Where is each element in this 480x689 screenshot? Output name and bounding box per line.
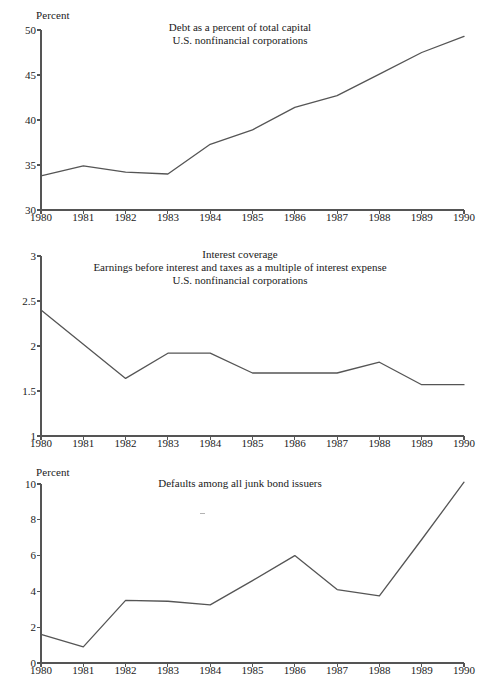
x-tick-label-2-1983: 1983 (151, 438, 185, 449)
x-tick-label-2-1982: 1982 (109, 438, 143, 449)
y-tick-label-1-50: 50 (0, 25, 36, 36)
x-tick-label-1-1984: 1984 (193, 212, 227, 223)
y-tick-label-1-45: 45 (0, 70, 36, 81)
x-tick-label-2-1990: 1990 (447, 438, 480, 449)
data-series-line-2 (41, 310, 464, 385)
x-tick-label-1-1981: 1981 (66, 212, 100, 223)
chart-svg-2 (0, 230, 480, 460)
x-tick-label-3-1983: 1983 (151, 665, 185, 676)
chart-svg-3 (0, 460, 480, 689)
x-tick-label-3-1981: 1981 (66, 665, 100, 676)
x-tick-label-2-1987: 1987 (320, 438, 354, 449)
x-tick-label-1-1988: 1988 (362, 212, 396, 223)
x-tick-label-1-1989: 1989 (405, 212, 439, 223)
y-tick-label-3-4: 4 (0, 586, 36, 597)
x-tick-label-3-1980: 1980 (24, 665, 58, 676)
y-tick-label-3-2: 2 (0, 622, 36, 633)
x-tick-label-1-1986: 1986 (278, 212, 312, 223)
x-tick-label-2-1985: 1985 (236, 438, 270, 449)
x-tick-label-2-1988: 1988 (362, 438, 396, 449)
x-tick-label-1-1987: 1987 (320, 212, 354, 223)
x-tick-label-3-1982: 1982 (109, 665, 143, 676)
plot-area-3 (0, 460, 480, 689)
x-tick-label-3-1987: 1987 (320, 665, 354, 676)
chart-panel-3: Percent Defaults among all junk bond iss… (0, 460, 480, 689)
x-tick-label-1-1985: 1985 (236, 212, 270, 223)
chart-panel-1: Percent Debt as a percent of total capit… (0, 0, 480, 230)
x-tick-label-3-1989: 1989 (405, 665, 439, 676)
x-tick-label-1-1990: 1990 (447, 212, 480, 223)
x-tick-label-2-1989: 1989 (405, 438, 439, 449)
data-series-line-3 (41, 482, 464, 647)
y-tick-label-2-2: 2 (0, 341, 36, 352)
x-tick-label-1-1983: 1983 (151, 212, 185, 223)
plot-area-1 (0, 0, 480, 230)
x-tick-label-3-1985: 1985 (236, 665, 270, 676)
y-tick-label-3-6: 6 (0, 550, 36, 561)
x-tick-label-3-1984: 1984 (193, 665, 227, 676)
chart-panel-2: Interest coverage Earnings before intere… (0, 230, 480, 460)
x-tick-label-3-1986: 1986 (278, 665, 312, 676)
plot-area-2 (0, 230, 480, 460)
scan-artifact (200, 513, 205, 514)
x-tick-label-1-1980: 1980 (24, 212, 58, 223)
x-tick-label-2-1980: 1980 (24, 438, 58, 449)
y-tick-label-2-1.5: 1.5 (0, 386, 36, 397)
y-tick-label-1-35: 35 (0, 160, 36, 171)
x-tick-label-3-1990: 1990 (447, 665, 480, 676)
y-tick-label-3-10: 10 (0, 479, 36, 490)
x-tick-label-1-1982: 1982 (109, 212, 143, 223)
y-tick-label-3-8: 8 (0, 514, 36, 525)
y-tick-label-1-40: 40 (0, 115, 36, 126)
x-tick-label-2-1986: 1986 (278, 438, 312, 449)
figure-page: Percent Debt as a percent of total capit… (0, 0, 480, 689)
y-tick-label-2-2.5: 2.5 (0, 296, 36, 307)
x-tick-label-3-1988: 1988 (362, 665, 396, 676)
data-series-line-1 (41, 36, 464, 176)
x-tick-label-2-1984: 1984 (193, 438, 227, 449)
x-tick-label-2-1981: 1981 (66, 438, 100, 449)
y-tick-label-2-3: 3 (0, 251, 36, 262)
chart-svg-1 (0, 0, 480, 230)
